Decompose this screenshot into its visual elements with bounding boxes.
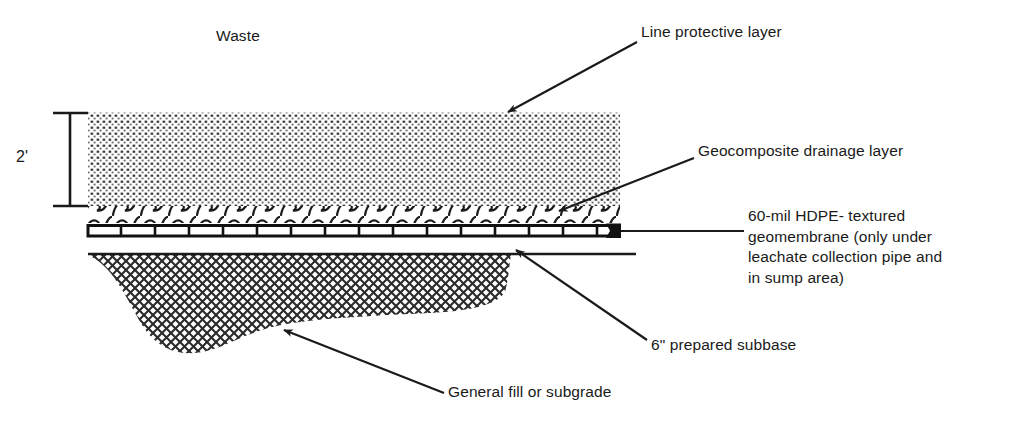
landfill-liner-cross-section-diagram: Waste Line protective layer Geocomposite…: [0, 0, 1013, 422]
label-line-protective-layer: Line protective layer: [641, 22, 782, 43]
leader-general-fill-subgrade: [284, 330, 444, 393]
leader-line-protective-layer: [508, 42, 637, 112]
label-hdpe-geomembrane: 60-mil HDPE- textured geomembrane (only …: [748, 206, 942, 288]
geocomposite-drainage-layer-shape: [88, 206, 620, 223]
label-prepared-subbase: 6" prepared subbase: [651, 335, 796, 356]
dimension-label-thickness: 2': [16, 147, 28, 168]
thickness-dimension-marker: [53, 113, 88, 206]
line-protective-layer-shape: [88, 113, 620, 207]
leader-prepared-subbase: [516, 250, 647, 340]
label-geocomposite-drainage-layer: Geocomposite drainage layer: [698, 141, 903, 162]
hdpe-geomembrane-shape: [88, 224, 621, 239]
label-waste: Waste: [216, 26, 260, 47]
general-fill-subgrade-shape: [88, 254, 636, 353]
label-general-fill-subgrade: General fill or subgrade: [448, 382, 612, 403]
